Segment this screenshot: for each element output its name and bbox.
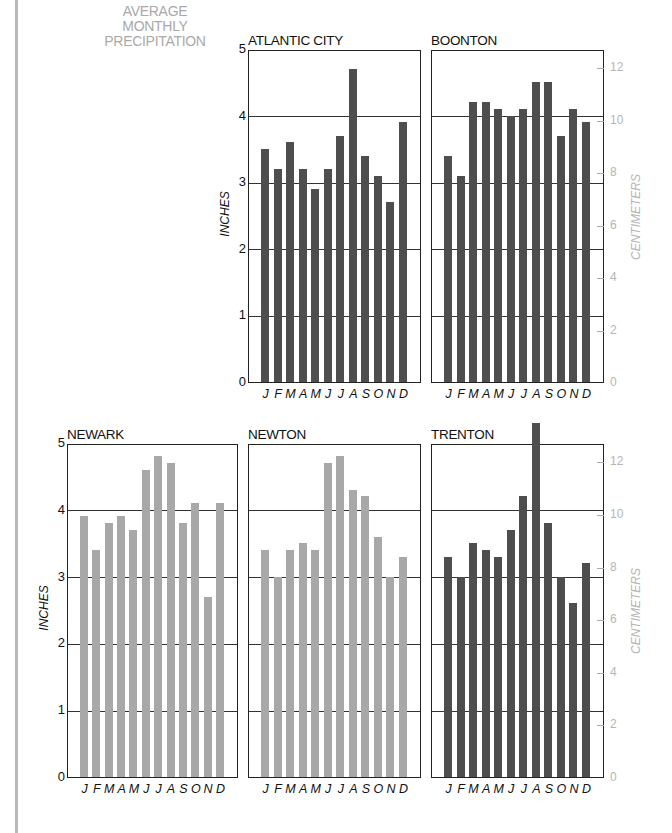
month-label: A xyxy=(530,782,542,796)
month-label: F xyxy=(272,782,284,796)
inch-tick-label: 5 xyxy=(51,435,65,450)
month-label: M xyxy=(493,387,505,401)
bar-8 xyxy=(532,423,540,777)
bar-9 xyxy=(361,496,369,777)
cm-axis-label-top: CENTIMETERS xyxy=(629,174,643,260)
bar-9 xyxy=(544,523,552,777)
month-label: S xyxy=(177,782,189,796)
chart-title: TRENTON xyxy=(431,427,494,442)
month-label: N xyxy=(385,387,397,401)
bar-2 xyxy=(274,577,282,777)
month-label: D xyxy=(398,782,410,796)
bar-4 xyxy=(299,543,307,777)
bar-5 xyxy=(311,550,319,777)
month-label: M xyxy=(468,782,480,796)
bar-2 xyxy=(92,550,100,777)
month-label: S xyxy=(360,387,372,401)
cm-tick-label: 2 xyxy=(610,323,617,337)
cm-tick-label: 12 xyxy=(610,454,623,468)
bar-1 xyxy=(444,156,452,382)
month-label: M xyxy=(128,782,140,796)
month-label: O xyxy=(190,782,202,796)
chart-title: ATLANTIC CITY xyxy=(248,33,343,48)
bar-1 xyxy=(444,557,452,777)
month-label: O xyxy=(372,387,384,401)
cm-tick-label: 0 xyxy=(610,375,617,389)
month-label: S xyxy=(360,782,372,796)
cm-tick-label: 2 xyxy=(610,717,617,731)
cm-tick-label: 10 xyxy=(610,113,623,127)
bar-11 xyxy=(204,597,212,777)
cm-tick-label: 6 xyxy=(610,218,617,232)
bar-6 xyxy=(507,116,515,382)
gridline xyxy=(68,510,237,511)
month-label: A xyxy=(530,387,542,401)
month-label: O xyxy=(555,387,567,401)
bar-8 xyxy=(349,69,357,382)
gridline xyxy=(249,510,420,511)
bar-1 xyxy=(261,149,269,382)
bar-5 xyxy=(494,557,502,777)
month-label: J xyxy=(443,782,455,796)
cm-axis-label-bottom: CENTIMETERS xyxy=(629,568,643,654)
bar-7 xyxy=(519,109,527,382)
bar-5 xyxy=(129,530,137,777)
cm-tick-mark xyxy=(597,226,604,227)
cm-tick-mark xyxy=(597,568,604,569)
bar-6 xyxy=(142,470,150,777)
bar-2 xyxy=(457,577,465,777)
bar-5 xyxy=(311,189,319,382)
month-label: J xyxy=(443,387,455,401)
month-label: M xyxy=(493,782,505,796)
main-title-line-1: AVERAGE xyxy=(80,4,230,19)
chart-title: NEWTON xyxy=(248,427,306,442)
month-label: J xyxy=(505,782,517,796)
month-label: J xyxy=(505,387,517,401)
bar-2 xyxy=(457,176,465,382)
gridline xyxy=(432,510,603,511)
bar-12 xyxy=(399,122,407,382)
page-margin-rule xyxy=(15,0,18,833)
bar-4 xyxy=(117,516,125,777)
inch-tick-label: 0 xyxy=(232,374,246,389)
inches-axis-label-top: INCHES xyxy=(218,191,232,236)
main-title-line-2: MONTHLY xyxy=(80,19,230,34)
month-label: J xyxy=(335,387,347,401)
month-label: J xyxy=(140,782,152,796)
cm-tick-label: 6 xyxy=(610,612,617,626)
bar-1 xyxy=(80,516,88,777)
cm-tick-mark xyxy=(597,331,604,332)
bar-11 xyxy=(569,109,577,382)
bar-10 xyxy=(374,176,382,382)
bar-10 xyxy=(191,503,199,777)
month-label: A xyxy=(297,387,309,401)
bar-11 xyxy=(569,603,577,777)
month-label: S xyxy=(543,782,555,796)
cm-tick-label: 4 xyxy=(610,270,617,284)
bar-4 xyxy=(299,169,307,382)
cm-tick-mark xyxy=(597,278,604,279)
month-label: J xyxy=(79,782,91,796)
month-label: D xyxy=(581,387,593,401)
bar-3 xyxy=(286,142,294,382)
bar-9 xyxy=(361,156,369,382)
month-label: J xyxy=(335,782,347,796)
bar-7 xyxy=(336,136,344,382)
bar-10 xyxy=(374,537,382,777)
month-label: M xyxy=(103,782,115,796)
month-label: F xyxy=(91,782,103,796)
inch-tick-label: 2 xyxy=(232,241,246,256)
cm-tick-mark xyxy=(597,673,604,674)
month-label: D xyxy=(581,782,593,796)
cm-tick-label: 8 xyxy=(610,165,617,179)
month-label: J xyxy=(518,782,530,796)
month-label: F xyxy=(455,387,467,401)
bar-7 xyxy=(336,456,344,777)
month-label: M xyxy=(285,782,297,796)
month-label: N xyxy=(568,387,580,401)
bar-1 xyxy=(261,550,269,777)
month-label: J xyxy=(518,387,530,401)
cm-tick-mark xyxy=(597,121,604,122)
cm-tick-mark xyxy=(597,173,604,174)
bar-9 xyxy=(544,82,552,382)
